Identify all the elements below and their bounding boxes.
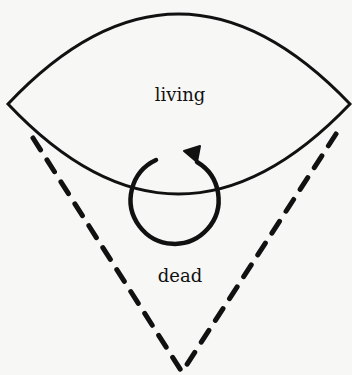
cycle-arrowhead-icon — [184, 146, 200, 162]
living-label: living — [155, 86, 206, 104]
dead-cone-left-edge — [33, 138, 182, 372]
diagram-svg — [0, 0, 352, 375]
cycle-arrow-icon — [131, 160, 219, 244]
diagram-canvas: living dead — [0, 0, 352, 375]
dead-label: dead — [158, 267, 202, 285]
